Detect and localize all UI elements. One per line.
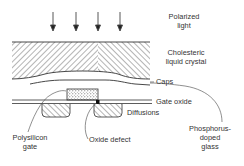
label-diffusions: Diffusions <box>127 108 159 117</box>
diffusion-right <box>94 104 122 117</box>
label-polarized-light: Polarized light <box>156 12 212 30</box>
arrow-down-icon <box>96 12 101 31</box>
caps-layer <box>30 80 150 85</box>
label-gate-oxide: Gate oxide <box>156 97 192 106</box>
diffusion-left <box>42 104 70 117</box>
arrow-down-icon <box>51 12 56 31</box>
liquid-crystal-layer <box>12 40 150 82</box>
arrow-down-icon <box>118 12 123 31</box>
label-cholesteric-liquid-crystal: Cholesteric liquid crystal <box>155 48 217 66</box>
arrow-down-icon <box>74 12 79 31</box>
polarized-light-arrows <box>51 12 123 31</box>
label-oxide-defect: Oxide defect <box>89 135 131 144</box>
polysilicon-gate <box>67 89 98 100</box>
label-caps: Caps <box>156 77 173 86</box>
label-phosphorus-doped-glass: Phosphorus- doped glass <box>182 124 238 151</box>
label-polysilicon-gate: Polysilicon gate <box>6 133 54 151</box>
